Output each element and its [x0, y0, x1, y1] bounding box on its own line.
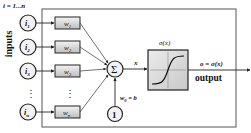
input-row-3: i3 w3 — [20, 63, 106, 79]
ellipsis-inputs: ⋮ — [26, 88, 36, 99]
bias-label: w0 = b — [120, 94, 138, 103]
sum-output-label: x — [133, 59, 138, 67]
activation-label: σ(x) — [159, 39, 171, 47]
output-equation: o = σ(x) — [200, 60, 223, 68]
ellipsis-weights: ⋮ — [65, 88, 75, 99]
summation-symbol: Σ — [111, 63, 117, 75]
bias-node-label: 1 — [112, 110, 117, 120]
neuron-diagram: i = 1...n inputs i1 w1 i2 w2 i3 w3 ⋮ ⋮ i… — [0, 0, 251, 133]
input-row-1: i1 w1 — [20, 15, 108, 63]
index-label: i = 1...n — [3, 2, 25, 10]
inputs-label: inputs — [3, 31, 14, 58]
output-label: output — [195, 73, 223, 83]
